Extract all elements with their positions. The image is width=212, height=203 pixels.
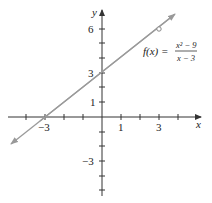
function-line-forward	[40, 14, 175, 121]
fraction-denominator: x − 3	[176, 53, 195, 63]
tick-label-x-1: 1	[118, 121, 124, 133]
y-axis-label: y	[91, 6, 97, 18]
function-name-label: f(x) =	[143, 45, 168, 58]
function-annotation: f(x) = x² − 9 x − 3	[143, 40, 197, 63]
open-point-hole	[157, 27, 161, 31]
tick-label-x-neg3: −3	[38, 121, 50, 133]
tick-label-y-6: 6	[88, 23, 94, 35]
tick-label-y-1: 1	[90, 96, 96, 108]
tick-label-x-3: 3	[156, 121, 162, 133]
function-graph: y x −3 1 3 6 3 1 −3 f(x) = x² − 9 x − 3	[0, 0, 212, 203]
tick-label-y-3: 3	[88, 67, 94, 79]
fraction-numerator: x² − 9	[175, 40, 197, 50]
tick-label-y-neg3: −3	[82, 155, 94, 167]
x-axis-label: x	[195, 118, 201, 130]
